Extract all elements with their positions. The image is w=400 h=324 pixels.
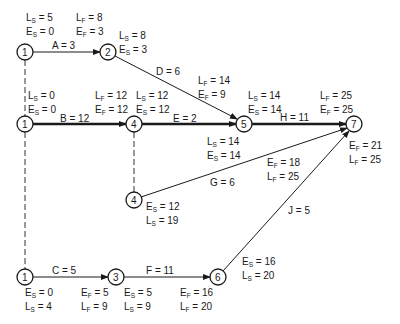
activity-a-label: A = 3 xyxy=(52,40,75,51)
annotation-b-finish: LF = 12 EF = 12 xyxy=(95,90,128,118)
annotation-a-finish: LF = 8 EF = 3 xyxy=(76,12,104,40)
annotation-c-finish: EF = 5 LF = 9 xyxy=(81,287,109,315)
annotation-f-start: ES = 5 LS = 9 xyxy=(124,287,152,315)
activity-f-label: F = 11 xyxy=(146,265,174,276)
annotation-c-start: ES = 0 LS = 4 xyxy=(25,287,53,315)
node-4-middle-label: 4 xyxy=(131,119,137,130)
activity-h-label: H = 11 xyxy=(280,112,309,123)
annotation-j-finish: EF = 21 LF = 25 xyxy=(349,140,382,168)
node-1-top-label: 1 xyxy=(22,47,28,58)
node-3-label: 3 xyxy=(113,272,119,283)
annotation-h-finish: LF = 25 EF = 25 xyxy=(320,90,353,118)
activity-d-label: D = 6 xyxy=(156,66,180,77)
activity-c-label: C = 5 xyxy=(52,265,76,276)
annotation-h-start: LS = 14 ES = 14 xyxy=(248,90,282,118)
annotation-d-finish: LF = 14 EF = 9 xyxy=(198,75,230,103)
activity-b-label: B = 12 xyxy=(60,113,89,124)
node-5-label: 5 xyxy=(241,119,247,130)
annotation-b-start: LS = 0 ES = 0 xyxy=(28,90,56,118)
activity-g-arrow xyxy=(141,128,347,197)
node-1-bottom-label: 1 xyxy=(22,272,28,283)
node-1-middle-label: 1 xyxy=(22,119,28,130)
annotation-a-start: LS = 5 ES = 0 xyxy=(26,12,54,40)
annotation-d-start: LS = 8 ES = 3 xyxy=(119,30,147,58)
node-7-label: 7 xyxy=(351,119,357,130)
node-6-label: 6 xyxy=(215,272,221,283)
activity-g-label: G = 6 xyxy=(210,177,235,188)
annotation-e-finish: LS = 14 ES = 14 xyxy=(207,136,241,164)
annotation-g-finish: EF = 18 LF = 25 xyxy=(267,157,300,185)
node-4-lower-label: 4 xyxy=(131,195,137,206)
annotation-j-start: ES = 16 LS = 20 xyxy=(242,256,276,284)
activity-e-label: E = 2 xyxy=(173,113,197,124)
activity-j-label: J = 5 xyxy=(288,205,310,216)
annotation-f-finish: EF = 16 LF = 20 xyxy=(180,287,213,315)
node-2-label: 2 xyxy=(105,47,111,58)
activity-j-arrow xyxy=(223,131,349,271)
annotation-g-start: ES = 12 LS = 19 xyxy=(146,201,180,229)
annotation-e-start: LS = 12 ES = 12 xyxy=(136,90,170,118)
